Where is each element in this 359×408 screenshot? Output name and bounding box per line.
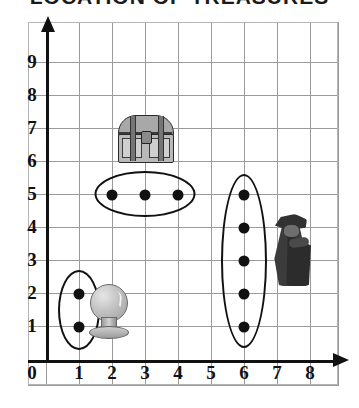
x-tick-3: 3 [135,362,155,384]
treasure-map-graph: LOCATION OF TREASURES [0,0,359,408]
crystal-ball-icon [85,284,131,338]
y-tick-4: 4 [22,216,42,238]
x-tick-7: 7 [267,362,287,384]
x-tick-4: 4 [168,362,188,384]
chart-title: LOCATION OF TREASURES [0,0,359,9]
y-tick-8: 8 [22,84,42,106]
y-tick-6: 6 [22,150,42,172]
data-point [239,322,250,333]
y-tick-9: 9 [22,51,42,73]
y-axis-arrow-icon [41,16,55,32]
x-tick-6: 6 [234,362,254,384]
y-tick-3: 3 [22,249,42,271]
data-point [239,190,250,201]
data-point [107,190,118,201]
plot-area: 9 8 7 6 5 4 3 2 1 0 1 2 3 4 5 6 7 8 [28,22,348,392]
data-point [239,289,250,300]
y-tick-5: 5 [22,183,42,205]
x-tick-1: 1 [69,362,89,384]
x-axis-arrow-icon [333,353,349,367]
y-tick-0: 0 [22,362,42,384]
data-point [173,190,184,201]
x-tick-5: 5 [201,362,221,384]
pirate-figure-icon [267,208,313,286]
data-point [239,223,250,234]
data-point [140,190,151,201]
y-tick-2: 2 [22,282,42,304]
y-tick-7: 7 [22,117,42,139]
y-axis [46,28,49,361]
data-point [239,256,250,267]
treasure-chest-icon [114,115,176,163]
x-tick-2: 2 [102,362,122,384]
y-tick-1: 1 [22,315,42,337]
data-point [74,289,85,300]
data-point [74,322,85,333]
x-tick-8: 8 [300,362,320,384]
